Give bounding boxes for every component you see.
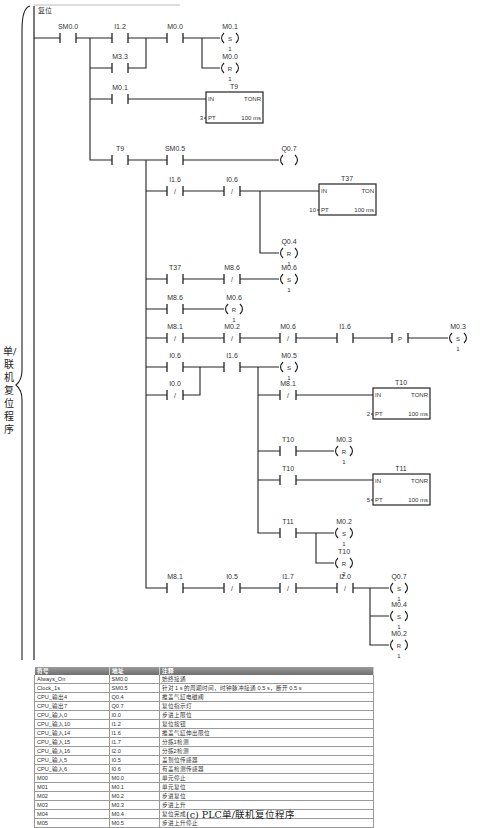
coil[interactable]: M0.3R1 [336,436,353,465]
address-cell: M0.0 [109,774,159,783]
nc-contact[interactable]: /I0.5 [224,573,240,593]
nc-contact[interactable]: /M8.1 [167,323,183,343]
timer-unit: 100 ms [354,207,374,213]
col-address[interactable]: 地址 [109,667,159,675]
nc-contact[interactable]: /M8.6 [224,264,240,284]
comment-cell: 始终接通 [159,675,374,684]
timer-preset: 2 [367,411,371,417]
table-row[interactable]: M01M0.1单元复位 [35,783,374,792]
no-contact[interactable]: T9 [112,145,128,165]
contact-label: I1.6 [226,352,238,359]
table-row[interactable]: Clock_1sSM0.5针对 1 s 的周期时间，时钟脉冲接通 0.5 s，断… [35,684,374,693]
table-row[interactable]: CPU_输入15I1.7分拣1检测 [35,738,374,747]
coil[interactable]: M0.5S1 [281,352,298,381]
coil[interactable]: M0.2S1 [336,518,353,547]
nc-contact[interactable]: /I1.6 [167,176,183,196]
coil-label: M0.2 [336,518,352,525]
timer-block[interactable]: T11INTONRPT100 ms5 [367,465,430,505]
svg-text:/: / [231,585,233,592]
table-row[interactable]: CPU_输入6I0.6有盖检测传感器 [35,765,374,774]
no-contact[interactable]: SM0.5 [165,145,185,165]
table-row[interactable]: CPU_输入14I1.6推盖气缸伸出限位 [35,729,374,738]
table-row[interactable]: CPU_输入0I0.0步进上限位 [35,711,374,720]
contact-label: M0.6 [280,323,296,330]
table-row[interactable]: CPU_输出7Q0.7复位指示灯 [35,702,374,711]
table-row[interactable]: M02M0.2步进复位 [35,792,374,801]
timer-preset: 5 [367,497,371,503]
coil[interactable]: M0.6S1 [281,264,298,293]
address-cell: Q0.7 [109,702,159,711]
symbol-cell: CPU_输入0 [35,711,110,720]
timer-unit: 100 ms [408,497,428,503]
svg-text:/: / [231,188,233,195]
no-contact[interactable]: M3.3 [112,53,128,73]
table-row[interactable]: CPU_输入10I1.2复位按钮 [35,720,374,729]
contact-label: M8.6 [167,294,183,301]
coil[interactable]: M0.0R1 [222,53,239,82]
timer-block[interactable]: T9INTONRPT100 ms3 [200,83,263,123]
no-contact[interactable]: T10 [280,465,296,485]
timer-block[interactable]: T10INTONRPT100 ms2 [367,379,430,419]
symbol-cell: M01 [35,783,110,792]
coil[interactable]: Q0.4R1 [281,238,298,267]
contact-label: I1.7 [282,573,294,580]
coil-count: 1 [342,541,346,547]
contact-label: SM0.5 [165,145,185,152]
nc-contact[interactable]: /M0.2 [224,323,240,343]
contact-label: M8.1 [167,323,183,330]
no-contact[interactable]: T37 [167,264,183,284]
nc-contact[interactable]: /M0.6 [280,323,296,343]
coil-type: S [397,586,401,592]
table-row[interactable]: CPU_输入16I2.0分拣2检测 [35,747,374,756]
no-contact[interactable]: M8.1 [167,573,183,593]
col-comment[interactable]: 注释 [159,667,374,675]
svg-text:/: / [287,335,289,342]
nc-contact[interactable]: /I1.7 [280,573,296,593]
nc-contact[interactable]: /I0.6 [224,176,240,196]
symbol-cell: CPU_输入14 [35,729,110,738]
timer-block[interactable]: T37INTONPT100 ms10 [309,175,376,215]
comment-cell: 步进复位 [159,792,374,801]
address-cell: I2.0 [109,747,159,756]
contact-label: SM0.0 [58,23,78,30]
coil[interactable]: M0.1S1 [222,23,239,52]
coil[interactable]: M0.4S1 [391,601,408,630]
coil[interactable]: Q0.7S1 [391,573,408,602]
no-contact[interactable]: I1.2 [112,23,128,43]
table-row[interactable]: M00M0.0单元停止 [35,774,374,783]
no-contact[interactable]: I0.6 [167,352,183,372]
no-contact[interactable]: I1.6 [337,323,353,343]
timer-type: TONR [244,96,262,102]
no-contact[interactable]: M8.6 [167,294,183,314]
no-contact[interactable]: SM0.0 [58,23,78,43]
symbol-cell: CPU_输出4 [35,693,110,702]
table-row[interactable]: CPU_输出4Q0.4推盖气缸电磁阀 [35,693,374,702]
coil-type: S [342,531,346,537]
address-cell: M0.2 [109,792,159,801]
coil[interactable]: M0.6R1 [226,294,243,323]
coil-type: R [342,449,347,455]
no-contact[interactable]: I1.6 [224,352,240,372]
coil-count: 1 [342,459,346,465]
address-cell: I1.2 [109,720,159,729]
ladder-wires [34,38,448,645]
symbol-table-body: Always_OnSM0.0始终接通Clock_1sSM0.5针对 1 s 的周… [35,675,374,828]
col-symbol[interactable]: 符号 [35,667,110,675]
no-contact[interactable]: M0.1 [112,84,128,104]
contact-label: I1.2 [114,23,126,30]
no-contact[interactable]: M0.0 [167,23,183,43]
table-row[interactable]: Always_OnSM0.0始终接通 [35,675,374,684]
symbol-cell: CPU_输入16 [35,747,110,756]
coil[interactable]: Q0.7 [281,145,298,165]
positive-edge-contact[interactable]: P [392,333,408,343]
contact-label: T37 [169,264,181,271]
coil-type: S [397,614,401,620]
coil[interactable]: M0.3S1 [450,323,467,352]
nc-contact[interactable]: /M8.1 [280,380,296,400]
coil[interactable]: M0.2R1 [391,630,408,659]
nc-contact[interactable]: /I0.0 [167,380,183,400]
no-contact[interactable]: T10 [280,436,296,456]
comment-cell: 推盖气缸电磁阀 [159,693,374,702]
table-row[interactable]: CPU_输入5I0.5盖到位传感器 [35,756,374,765]
no-contact[interactable]: T11 [280,518,296,538]
